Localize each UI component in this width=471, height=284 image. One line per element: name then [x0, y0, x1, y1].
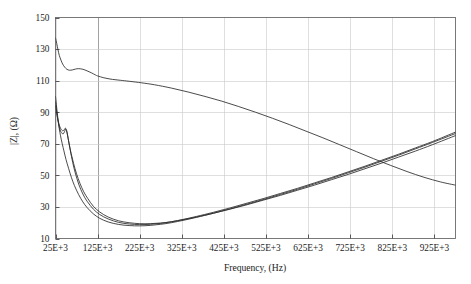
x-tick-label: 625E+3 — [293, 243, 323, 253]
x-tick-label: 25E+3 — [43, 243, 68, 253]
y-tick-label: 70 — [40, 139, 50, 149]
series-curve-upper-descending — [56, 38, 456, 185]
y-tick-label: 130 — [36, 44, 50, 54]
x-tick-label: 525E+3 — [251, 243, 281, 253]
y-tick-label: 150 — [36, 13, 50, 23]
x-tick-label: 425E+3 — [209, 243, 239, 253]
y-axis-title: |Z|, (Ω) — [8, 117, 20, 145]
y-tick-label: 90 — [40, 108, 50, 118]
x-tick-label: 125E+3 — [83, 243, 113, 253]
y-tick-label: 110 — [36, 76, 50, 86]
data-series-group — [56, 38, 456, 226]
series-curve-a-lower — [56, 96, 456, 225]
gridlines-group — [56, 18, 456, 239]
x-axis-title: Frequency, (Hz) — [224, 262, 286, 274]
x-tick-label: 325E+3 — [167, 243, 197, 253]
x-tick-labels-group: 25E+3125E+3225E+3325E+3425E+3525E+3625E+… — [43, 243, 449, 253]
x-tick-label: 825E+3 — [378, 243, 408, 253]
y-tick-label: 50 — [40, 171, 50, 181]
series-curve-b-lower — [56, 102, 456, 225]
y-tick-label: 30 — [40, 202, 50, 212]
impedance-magnitude-chart: 25E+3125E+3225E+3325E+3425E+3525E+3625E+… — [0, 0, 471, 284]
x-tick-label: 725E+3 — [335, 243, 365, 253]
x-tick-label: 925E+3 — [420, 243, 450, 253]
y-tick-label: 10 — [40, 234, 50, 244]
series-curve-c-lower — [56, 106, 456, 224]
tick-marks-group — [56, 19, 435, 240]
chart-svg: 25E+3125E+3225E+3325E+3425E+3525E+3625E+… — [0, 0, 471, 284]
x-tick-label: 225E+3 — [125, 243, 155, 253]
y-tick-labels-group: 1030507090110130150 — [36, 13, 50, 244]
plot-frame — [56, 18, 456, 239]
